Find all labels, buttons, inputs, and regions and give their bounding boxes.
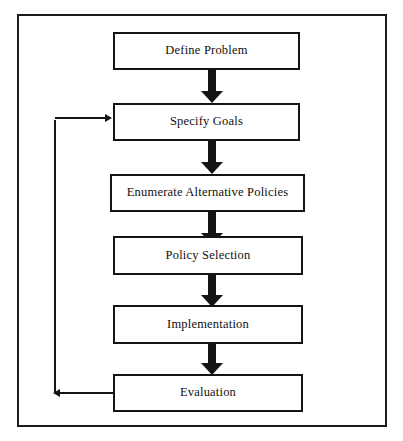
feedback-arrowhead-right [105,114,112,122]
feedback-line-bottom-horizontal [58,392,113,394]
node-enumerate-alternative-policies[interactable]: Enumerate Alternative Policies [110,174,305,212]
node-label-define-problem: Define Problem [165,44,247,58]
feedback-line-top-horizontal [55,117,106,119]
node-evaluation[interactable]: Evaluation [113,374,303,412]
node-implementation[interactable]: Implementation [113,305,303,344]
node-label-evaluation: Evaluation [180,386,236,400]
edge-arrow-specify-goals-to-enumerate [201,141,223,174]
node-label-implementation: Implementation [167,318,249,332]
edge-arrow-implementation-to-evaluation [201,344,223,375]
node-specify-goals[interactable]: Specify Goals [113,103,300,141]
feedback-line-vertical [54,120,56,393]
edge-arrow-define-problem-to-specify-goals [201,70,223,103]
edge-arrow-policy-selection-to-implementation [201,275,223,307]
diagram-canvas: Define Problem Specify Goals Enumerate A… [0,0,403,441]
node-policy-selection[interactable]: Policy Selection [113,236,303,275]
node-label-enumerate-alternative-policies: Enumerate Alternative Policies [127,186,289,200]
node-label-policy-selection: Policy Selection [166,249,251,263]
node-label-specify-goals: Specify Goals [170,115,243,129]
node-define-problem[interactable]: Define Problem [113,32,300,70]
